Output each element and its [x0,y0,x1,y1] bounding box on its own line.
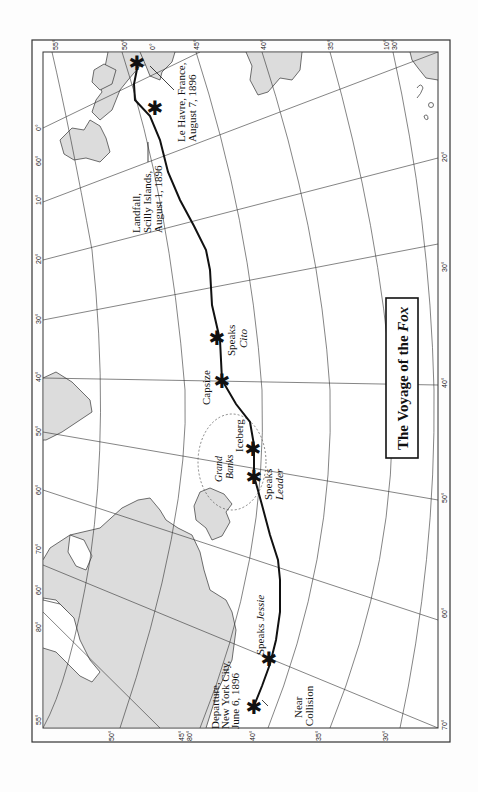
svg-text:60°: 60° [441,607,448,618]
label-grand-banks: Grand Banks [213,453,235,482]
svg-text:60°: 60° [35,584,42,595]
ticks-bottom: 50° 45° 80° 40° 35° 30° [108,730,389,741]
svg-text:40°: 40° [249,730,256,741]
svg-text:30°: 30° [441,261,448,272]
svg-text:60°: 60° [35,155,42,166]
svg-text:50°: 50° [108,730,115,741]
marker-iceberg: ✱ [245,437,262,461]
svg-text:30°: 30° [391,39,398,50]
svg-text:70°: 70° [441,719,448,730]
svg-text:10°: 10° [383,39,390,50]
svg-text:40°: 40° [260,39,267,50]
svg-text:50°: 50° [441,492,448,503]
ticks-left: 0° 60° 10° 20° 30° 40° 50° 60° 70° 60° 8… [35,124,42,725]
marker-departure: ✱ [246,695,263,719]
ticks-top: 55° 50° 0° 45° 40° 35° 10° 30° [52,39,398,50]
svg-text:40°: 40° [35,371,42,382]
voyage-map: ✱ ✱ ✱ ✱ ✱ ✱ ✱ ✱ Le Havre, France, August… [0,0,478,792]
marker-cito: ✱ [209,326,226,350]
label-speaks-jessie: Speaks Jessie [254,595,266,655]
marker-leader: ✱ [246,465,263,489]
svg-text:20°: 20° [35,253,42,264]
svg-text:45°: 45° [178,730,185,741]
svg-text:60°: 60° [35,484,42,495]
svg-text:55°: 55° [52,39,59,50]
svg-text:40°: 40° [441,377,448,388]
svg-text:35°: 35° [315,730,322,741]
svg-text:50°: 50° [121,39,128,50]
label-speaks-leader: Speaks Leader [262,466,285,501]
svg-text:55°: 55° [35,714,42,725]
marker-capsize: ✱ [214,369,231,393]
svg-text:80°: 80° [35,621,42,632]
svg-text:35°: 35° [327,39,334,50]
svg-text:80°: 80° [186,730,193,741]
ticks-right: 20° 30° 40° 50° 60° 70° [441,151,448,730]
svg-text:30°: 30° [35,313,42,324]
svg-text:45°: 45° [193,39,200,50]
svg-text:0°: 0° [149,43,156,50]
svg-text:50°: 50° [35,425,42,436]
svg-text:70°: 70° [35,543,42,554]
map-title: The Voyage of the Fox [395,306,411,450]
svg-text:10°: 10° [35,194,42,205]
svg-text:30°: 30° [382,730,389,741]
label-capsize: Capsize [200,370,212,405]
marker-le-havre: ✱ [129,51,146,75]
svg-text:0°: 0° [35,124,42,131]
map-title-box: The Voyage of the Fox [386,298,418,458]
svg-text:20°: 20° [441,151,448,162]
label-iceberg: Iceberg [233,419,245,452]
marker-landfall: ✱ [147,96,164,120]
